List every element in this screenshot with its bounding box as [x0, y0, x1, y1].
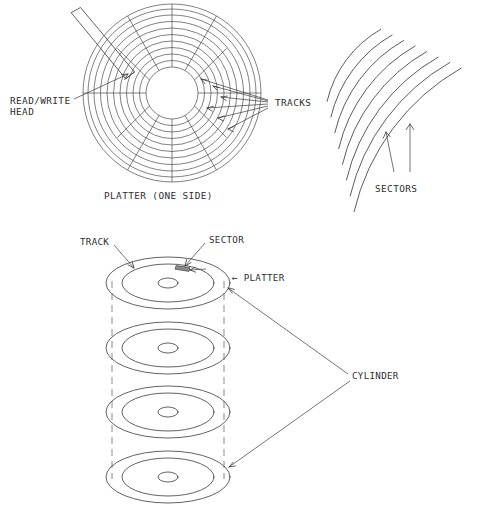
tracks-arrowhead	[201, 79, 207, 84]
sector-arc	[327, 29, 381, 101]
read-write-head-arm	[72, 8, 135, 79]
platter-disc	[106, 386, 230, 438]
sector-divider	[128, 16, 160, 71]
sector-arc	[335, 41, 404, 133]
cylinder-stack-view: TRACK SECTOR ← PLATTER CYLINDER	[80, 234, 399, 503]
platter-top-view: READ/WRITE HEAD TRACKS PLATTER (ONE SIDE…	[10, 4, 311, 201]
sector-divider	[195, 106, 227, 138]
cylinder-leader-upper	[228, 288, 348, 374]
platter-outer-edge	[106, 257, 230, 309]
hdd-structure-diagram: READ/WRITE HEAD TRACKS PLATTER (ONE SIDE…	[0, 0, 478, 511]
highlighted-sector	[175, 266, 190, 272]
sector-divider	[185, 16, 217, 71]
sector-arc	[350, 63, 450, 196]
platter-disc	[106, 322, 230, 374]
platter-outer-edge	[106, 386, 230, 438]
tracks-arrowhead	[213, 86, 219, 91]
head-arm-body	[72, 8, 135, 79]
platter-spindle-hole	[158, 343, 178, 353]
sector-label: SECTOR	[209, 234, 244, 245]
cylinder-guide-group	[112, 281, 224, 479]
sectors-arrow-line	[386, 132, 394, 172]
cylinder-label: CYLINDER	[352, 370, 399, 381]
platter-outer-edge	[106, 451, 230, 503]
platter-one-side-caption: PLATTER (ONE SIDE)	[104, 190, 213, 201]
track-circle	[146, 67, 198, 119]
sector-divider	[117, 49, 149, 81]
tracks-leader-group	[201, 79, 268, 132]
platter-label: ← PLATTER	[232, 272, 285, 283]
diagram-canvas: READ/WRITE HEAD TRACKS PLATTER (ONE SIDE…	[0, 0, 478, 511]
platter-disc	[106, 257, 230, 309]
platter-outer-edge	[106, 322, 230, 374]
platter-spindle-hole	[158, 472, 178, 482]
cylinder-leader-group	[228, 288, 350, 467]
read-write-head-label-line1: READ/WRITE	[10, 95, 70, 106]
sector-divider	[185, 116, 217, 171]
sectors-label: SECTORS	[375, 183, 417, 194]
platter-track-ring	[122, 458, 214, 496]
sectors-arrow-group	[383, 124, 414, 172]
sectors-detail-view: SECTORS	[327, 29, 461, 211]
tracks-arrowhead	[221, 96, 227, 101]
track-label: TRACK	[80, 236, 109, 247]
sector-divider	[128, 116, 160, 171]
sector-divider	[117, 106, 149, 138]
platter-disc	[106, 451, 230, 503]
cylinder-leader-lower	[229, 381, 350, 467]
tracks-label: TRACKS	[275, 97, 311, 108]
read-write-head-label-line2: HEAD	[10, 106, 34, 117]
sector-divider-group	[83, 4, 261, 182]
tracks-arrowhead	[207, 106, 213, 111]
sector-arc	[339, 46, 415, 149]
platter-spindle-hole	[158, 407, 178, 417]
platter-track-ring	[122, 393, 214, 431]
sector-divider	[195, 49, 227, 81]
sector-leader-line	[185, 243, 205, 266]
track-circle	[140, 61, 205, 126]
platter-spindle-hole	[158, 278, 178, 288]
platter-track-ring	[122, 329, 214, 367]
